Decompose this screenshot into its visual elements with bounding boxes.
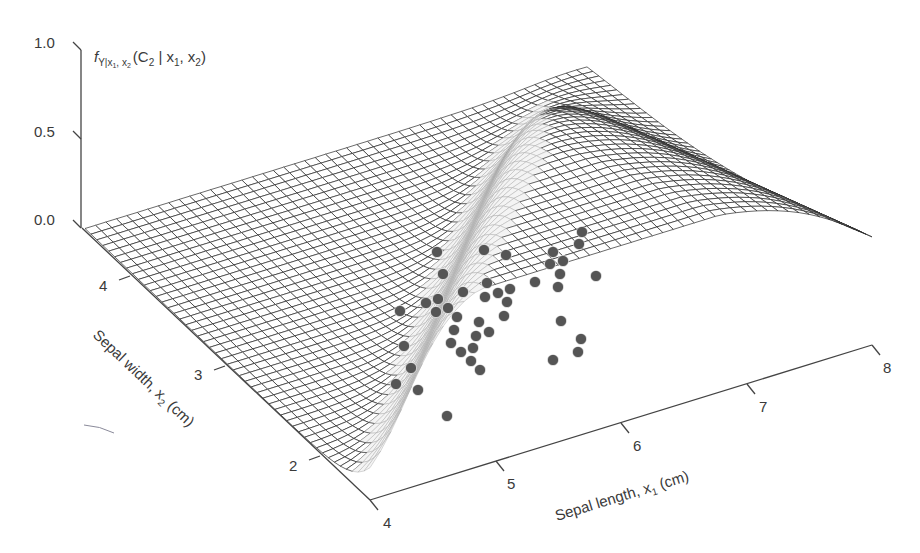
scatter-point [492, 287, 503, 298]
scatter-point [420, 297, 431, 308]
scatter-point [431, 246, 442, 257]
z-tick-label: 0.5 [34, 123, 55, 140]
scatter-point [498, 310, 509, 321]
scatter-point [555, 315, 566, 326]
scatter-point [474, 364, 485, 375]
x2-axis-title: Sepal width, x2 (cm) [88, 326, 198, 432]
scatter-point [501, 296, 512, 307]
scatter-point [554, 268, 565, 279]
scatter-point [576, 226, 587, 237]
scatter-point [590, 270, 601, 281]
scatter-point [398, 340, 409, 351]
scatter-point [437, 268, 448, 279]
scatter-point [470, 330, 481, 341]
scatter-point [547, 246, 558, 257]
scatter-point [465, 355, 476, 366]
scatter-point [448, 324, 459, 335]
scatter-point [467, 342, 478, 353]
x1-tick-label: 6 [633, 437, 641, 454]
scatter-point [473, 316, 484, 327]
scatter-point [451, 311, 462, 322]
scatter-point [394, 305, 405, 316]
scatter-point [483, 326, 494, 337]
scatter-point [430, 306, 441, 317]
scatter-point [478, 244, 489, 255]
scatter-point [500, 249, 511, 260]
z-tick-label: 0.0 [34, 211, 55, 228]
scatter-point [445, 337, 456, 348]
x1-tick-label: 5 [507, 475, 515, 492]
surface-plot: 1.0 0.5 0.0 fY|x1, x2(C2 | x1, x2) 4 3 2… [0, 0, 920, 553]
scatter-point [557, 255, 568, 266]
scatter-point [412, 384, 423, 395]
scatter-point [547, 354, 558, 365]
scatter-point [432, 293, 443, 304]
x1-tick-label: 7 [759, 398, 767, 415]
x1-tick-label: 8 [883, 359, 891, 376]
scatter-point [529, 276, 540, 287]
scatter-point [573, 238, 584, 249]
pen-mark [84, 425, 114, 433]
scatter-point [457, 286, 468, 297]
scatter-point [455, 346, 466, 357]
scatter-point [441, 410, 452, 421]
scatter-point [479, 291, 490, 302]
x1-tick-label: 4 [383, 514, 391, 531]
scatter-point [575, 333, 586, 344]
scatter-point [552, 281, 563, 292]
x2-tick-label: 4 [99, 277, 107, 294]
x2-tick-label: 3 [194, 366, 202, 383]
x1-axis: 4 5 6 7 8 Sepal length, x1 (cm) [370, 345, 891, 531]
scatter-point [572, 346, 583, 357]
scatter-point [481, 277, 492, 288]
scatter-point [504, 283, 515, 294]
z-tick-label: 1.0 [34, 34, 55, 51]
scatter-point [544, 258, 555, 269]
scatter-point [390, 378, 401, 389]
z-axis-title: fY|x1, x2(C2 | x1, x2) [94, 48, 206, 69]
probability-surface [85, 67, 872, 472]
scatter-point [442, 302, 453, 313]
scatter-point [405, 362, 416, 373]
x1-axis-title: Sepal length, x1 (cm) [553, 467, 692, 527]
x2-tick-label: 2 [289, 457, 297, 474]
